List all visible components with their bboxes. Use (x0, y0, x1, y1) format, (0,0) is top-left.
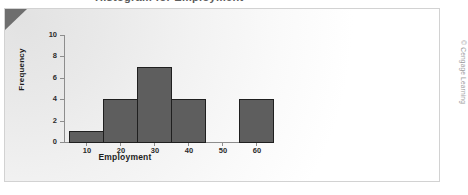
histogram-bar-40 (171, 99, 206, 143)
y-tick-label-0: 0 (41, 138, 57, 146)
y-tick-6 (60, 78, 65, 79)
y-tick-label-2: 2 (41, 117, 57, 125)
histogram-bar-30 (137, 67, 172, 143)
y-tick-10 (60, 35, 65, 36)
histogram-bar-10 (69, 131, 104, 143)
y-axis-label: Frequency (17, 40, 26, 100)
y-axis-line (64, 35, 65, 143)
y-tick-0 (60, 142, 65, 143)
y-tick-2 (60, 121, 65, 122)
y-tick-label-6: 6 (41, 74, 57, 82)
copyright-credit: © Cengage Learning (460, 40, 467, 104)
figure-panel: 10 8 6 4 2 0 10 20 30 40 50 60 Frequency… (4, 8, 440, 182)
x-tick-label-50: 50 (212, 147, 234, 155)
x-tick-label-60: 60 (246, 147, 268, 155)
y-tick-8 (60, 56, 65, 57)
histogram-bar-60 (239, 99, 274, 143)
figure-caption-text: Histogram for Employment (95, 0, 243, 3)
y-tick-label-10: 10 (41, 31, 57, 39)
x-axis-label: Employment (65, 152, 185, 162)
histogram-plot: 10 8 6 4 2 0 10 20 30 40 50 60 Frequency… (5, 9, 440, 182)
histogram-bar-20 (103, 99, 138, 143)
y-tick-label-8: 8 (41, 52, 57, 60)
y-tick-4 (60, 99, 65, 100)
caption-sliver: Histogram for Employment (0, 0, 468, 5)
y-tick-label-4: 4 (41, 95, 57, 103)
